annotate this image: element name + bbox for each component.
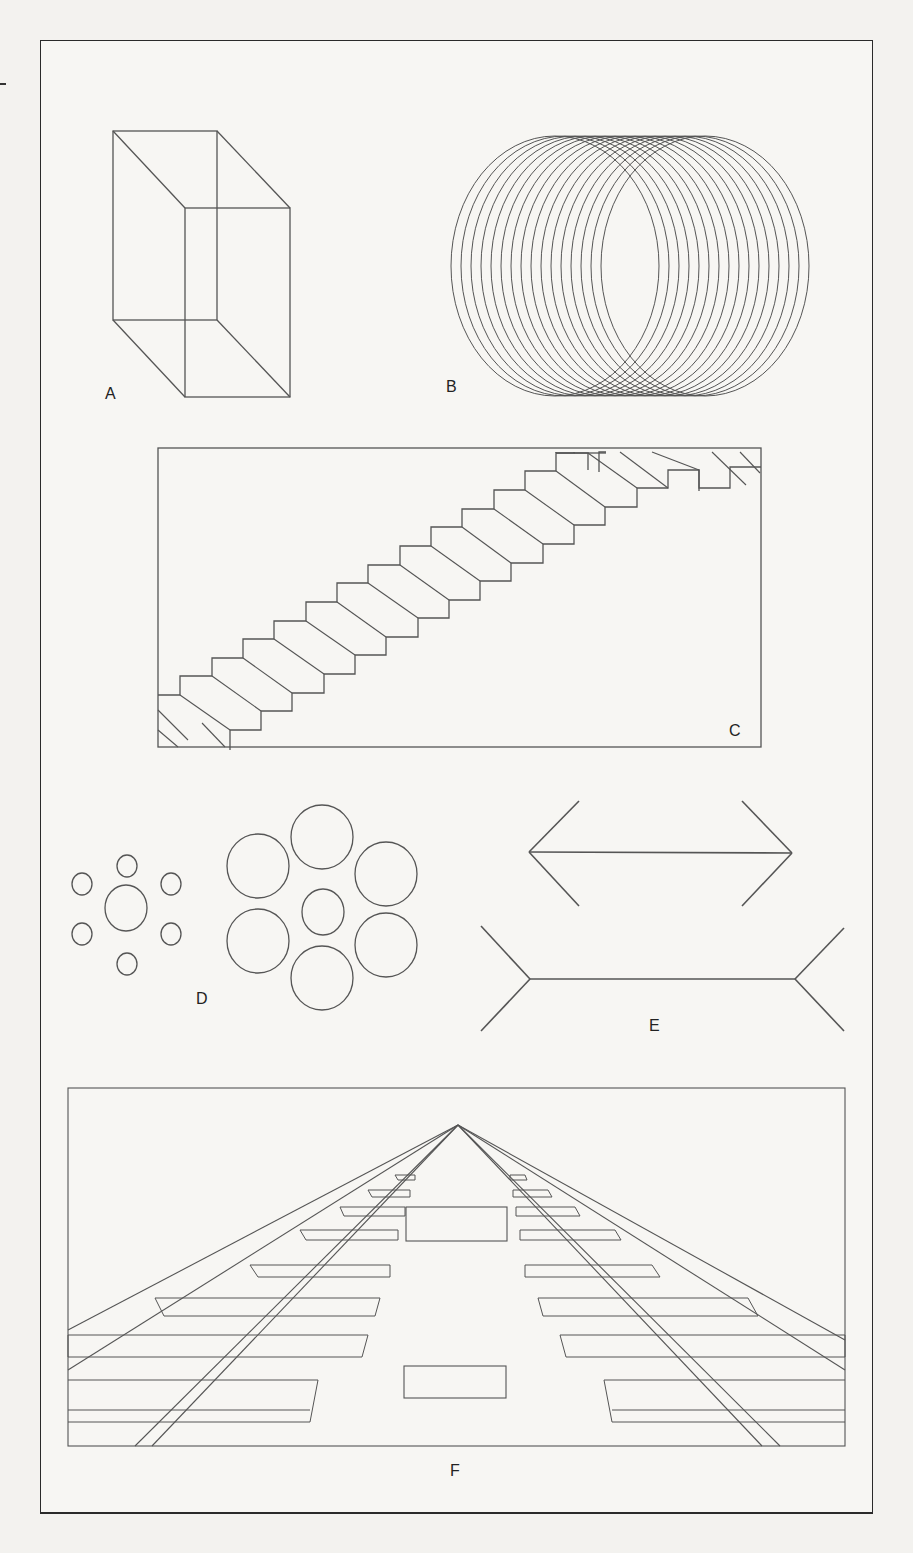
panel-label-d: D: [196, 990, 208, 1008]
illusion-figure: [0, 0, 913, 1553]
panel-label-a: A: [105, 385, 116, 403]
schroder-staircase: [158, 448, 761, 750]
ring-coil: [451, 136, 809, 396]
ebbinghaus-large-surround: [227, 805, 417, 1010]
panel-label-c: C: [729, 722, 741, 740]
panel-label-b: B: [446, 378, 457, 396]
ponzo-upper-rectangle: [406, 1207, 507, 1241]
ponzo-railway: [68, 1088, 845, 1446]
panel-label-e: E: [649, 1017, 660, 1035]
ebbinghaus-small-surround: [72, 855, 181, 975]
muller-lyer: [481, 801, 844, 1031]
ponzo-lower-rectangle: [404, 1366, 506, 1398]
necker-cube: [113, 131, 290, 397]
panel-label-f: F: [450, 1462, 460, 1480]
